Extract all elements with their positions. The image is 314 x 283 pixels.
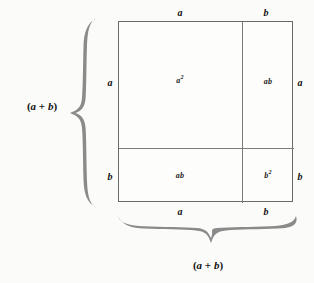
plus-sign: + [202, 259, 214, 271]
left-brace-caption: (a + b) [27, 100, 57, 112]
paren-close: ) [53, 100, 57, 112]
bottom-brace-caption: (a + b) [193, 259, 223, 271]
binomial-square-diagram: a2 ab ab b2 a b a b a b a b (a + b) (a +… [0, 0, 314, 283]
edge-label-top-b: b [264, 7, 269, 18]
paren-close: ) [219, 259, 223, 271]
edge-label-left-a: a [108, 77, 113, 88]
curly-brace-down-icon [116, 214, 298, 258]
edge-label-top-a: a [178, 7, 183, 18]
curly-brace-left-icon [56, 16, 100, 210]
vertical-divider-line [242, 22, 243, 203]
cell-label-b-squared: b2 [264, 171, 271, 180]
cell-label-ab-bottom-left: ab [176, 171, 184, 180]
plus-sign: + [36, 100, 48, 112]
edge-label-right-b: b [298, 171, 303, 182]
edge-label-left-b: b [108, 171, 113, 182]
edge-label-right-a: a [298, 77, 303, 88]
cell-label-ab-top-right: ab [264, 77, 272, 86]
cell-label-a-squared: a2 [176, 76, 183, 85]
horizontal-divider-line [119, 148, 294, 149]
outer-square: a2 ab ab b2 [118, 21, 293, 202]
